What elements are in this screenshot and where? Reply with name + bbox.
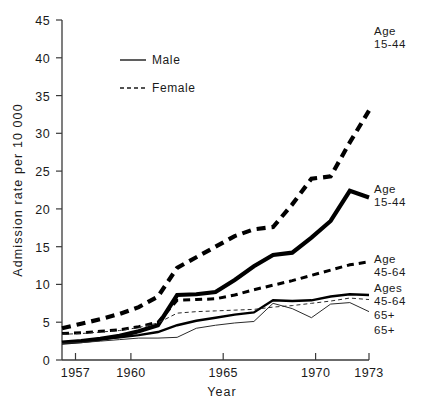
y-axis-title: Admission rate per 10 000 xyxy=(11,103,25,276)
label-male-15-44-line1: Age xyxy=(374,183,396,195)
y-tick-label-10: 10 xyxy=(35,278,50,292)
legend: Male Female xyxy=(120,53,196,95)
x-axis-ticks xyxy=(76,353,370,360)
y-tick-label-40: 40 xyxy=(35,52,50,66)
label-male-15-44-line2: 15-44 xyxy=(374,196,406,208)
x-axis-tick-labels: 1957 1960 1965 1970 1973 xyxy=(61,366,384,380)
y-tick-label-25: 25 xyxy=(35,165,50,179)
x-tick-label-1965: 1965 xyxy=(208,366,237,380)
x-tick-label-1960: 1960 xyxy=(116,366,145,380)
y-tick-label-35: 35 xyxy=(35,90,50,104)
legend-male-label: Male xyxy=(152,53,180,67)
y-tick-label-20: 20 xyxy=(35,203,50,217)
chart-figure: 45 40 35 30 25 20 15 10 5 0 1957 1960 19… xyxy=(0,0,424,416)
label-male-45-64-line2: 45-64 xyxy=(374,295,406,307)
y-tick-label-30: 30 xyxy=(35,127,50,141)
y-tick-label-45: 45 xyxy=(35,14,50,28)
label-female-65-plus: 65+ xyxy=(374,309,395,321)
legend-female-label: Female xyxy=(152,81,196,95)
label-male-45-64-line1: Ages xyxy=(374,282,402,294)
x-tick-label-1970: 1970 xyxy=(301,366,330,380)
x-tick-label-1973: 1973 xyxy=(354,366,383,380)
label-female-15-44-line2: 15-44 xyxy=(374,38,406,50)
y-tick-label-0: 0 xyxy=(43,354,50,368)
x-axis-title: Year xyxy=(207,385,237,399)
series-end-labels: Age 15-44 Age 15-44 Age 45-64 Ages 45-64… xyxy=(374,25,406,336)
series-male-15-44 xyxy=(62,191,369,343)
label-female-15-44-line1: Age xyxy=(374,25,396,37)
y-tick-label-5: 5 xyxy=(43,316,50,330)
y-axis-ticks xyxy=(56,20,62,360)
y-axis-tick-labels: 45 40 35 30 25 20 15 10 5 0 xyxy=(35,14,50,368)
label-female-45-64-line2: 45-64 xyxy=(374,266,406,278)
label-male-65-plus: 65+ xyxy=(374,324,395,336)
label-female-45-64-line1: Age xyxy=(374,253,396,265)
x-tick-label-1957: 1957 xyxy=(61,366,90,380)
line-chart-svg: 45 40 35 30 25 20 15 10 5 0 1957 1960 19… xyxy=(0,0,424,416)
y-tick-label-15: 15 xyxy=(35,241,50,255)
series-group xyxy=(62,111,369,344)
series-female-15-44 xyxy=(62,111,369,329)
